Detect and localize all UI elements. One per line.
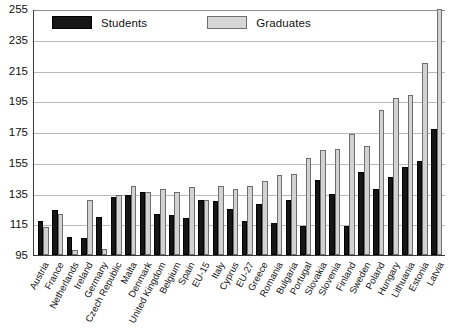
bar-group bbox=[65, 10, 80, 255]
bar-graduates-hungary bbox=[393, 98, 399, 255]
bar-group bbox=[36, 10, 51, 255]
y-tick-175: 175 bbox=[0, 127, 28, 139]
bar-group bbox=[430, 10, 445, 255]
bar-group bbox=[357, 10, 372, 255]
bar-group bbox=[371, 10, 386, 255]
x-tick-cell: Netherlands bbox=[64, 258, 79, 334]
y-tick-95: 95 bbox=[0, 250, 28, 262]
bar-group bbox=[240, 10, 255, 255]
y-tick-235: 235 bbox=[0, 35, 28, 47]
x-tick-cell: Lithuania bbox=[400, 258, 415, 334]
y-tick-155: 155 bbox=[0, 158, 28, 170]
x-tick-cell: Romania bbox=[269, 258, 284, 334]
x-tick-cell: Czech Republic bbox=[108, 258, 123, 334]
x-tick-cell: Estonia bbox=[415, 258, 430, 334]
y-tick-195: 195 bbox=[0, 96, 28, 108]
y-tick-215: 215 bbox=[0, 66, 28, 78]
x-axis-labels: AustriaFranceNetherlandsIrelandGermanyCz… bbox=[33, 258, 445, 334]
bar-group bbox=[415, 10, 430, 255]
bar-chart: 95115135155175195215235255 Students Grad… bbox=[0, 0, 451, 334]
bar-group bbox=[269, 10, 284, 255]
bar-group bbox=[211, 10, 226, 255]
y-tick-135: 135 bbox=[0, 189, 28, 201]
x-tick-cell: EU-15 bbox=[196, 258, 211, 334]
x-tick-cell: United Kingdom bbox=[152, 258, 167, 334]
x-tick-cell: Italy bbox=[210, 258, 225, 334]
bar-group bbox=[153, 10, 168, 255]
bar-group bbox=[313, 10, 328, 255]
x-tick-cell: Austria bbox=[35, 258, 50, 334]
x-tick-cell: Belgium bbox=[166, 258, 181, 334]
x-tick-cell: Spain bbox=[181, 258, 196, 334]
bar-group bbox=[284, 10, 299, 255]
bar-group bbox=[196, 10, 211, 255]
x-tick-cell: Finland bbox=[342, 258, 357, 334]
bar-group bbox=[226, 10, 241, 255]
x-tick-cell: EU-27 bbox=[240, 258, 255, 334]
bar-group bbox=[255, 10, 270, 255]
bar-group bbox=[328, 10, 343, 255]
bar-group bbox=[109, 10, 124, 255]
x-tick-cell: Cyprus bbox=[225, 258, 240, 334]
bar-group bbox=[51, 10, 66, 255]
x-tick-cell: Sweden bbox=[356, 258, 371, 334]
bar-group bbox=[386, 10, 401, 255]
bar-graduates-latvia bbox=[437, 9, 443, 255]
bar-group bbox=[298, 10, 313, 255]
bar-group bbox=[400, 10, 415, 255]
x-tick-cell: Latvia bbox=[429, 258, 444, 334]
bar-group bbox=[342, 10, 357, 255]
y-tick-255: 255 bbox=[0, 4, 28, 16]
y-tick-115: 115 bbox=[0, 219, 28, 231]
x-tick-cell: Slovenia bbox=[327, 258, 342, 334]
